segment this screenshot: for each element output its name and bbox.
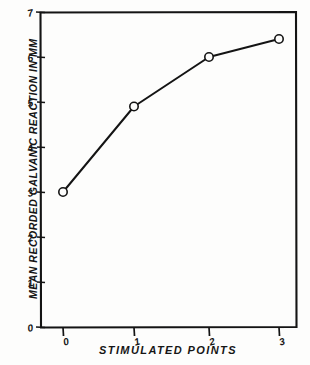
- data-point-marker: [130, 102, 138, 110]
- data-point-marker: [205, 53, 213, 61]
- series-polyline: [63, 39, 279, 192]
- y-axis-title: MEAN RECORDED GALVANIC REACTION IN MM: [27, 49, 39, 299]
- axis-frame: [41, 12, 297, 328]
- data-point-marker: [59, 188, 67, 196]
- plot-area-svg: [0, 0, 310, 365]
- galvanic-reaction-line-chart: MEAN RECORDED GALVANIC REACTION IN MM ST…: [0, 0, 310, 365]
- x-axis-title: STIMULATED POINTS: [40, 344, 296, 356]
- plot-frame-border: [41, 12, 297, 328]
- data-point-marker: [275, 35, 283, 43]
- data-point-markers: [59, 35, 283, 196]
- data-series-line: [63, 39, 279, 192]
